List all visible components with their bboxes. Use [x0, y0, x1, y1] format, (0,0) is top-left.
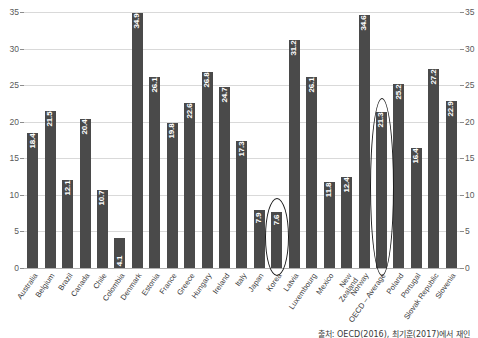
- bar-value-label: 24.7: [221, 88, 229, 103]
- bar[interactable]: 22.6: [184, 103, 195, 268]
- plot-area: 0055101015152020252530303535 18.421.512.…: [24, 12, 460, 268]
- y-axis-tickmark-right-15: [460, 158, 464, 159]
- bar-slot-belgium[interactable]: 21.5: [41, 12, 58, 268]
- category-slot: Poland: [390, 270, 407, 336]
- bar-slot-korea[interactable]: 7.6: [268, 12, 285, 268]
- y-axis-tick-left-30: 30: [10, 45, 19, 54]
- bar-value-label: 26.1: [308, 78, 316, 93]
- y-axis-tick-left-15: 15: [10, 154, 19, 163]
- bar-slot-ireland[interactable]: 24.7: [216, 12, 233, 268]
- bar[interactable]: 4.1: [114, 238, 125, 268]
- bar-slot-new-zealand[interactable]: 12.4: [338, 12, 355, 268]
- bar-value-label: 17.3: [238, 142, 246, 157]
- bar-slot-latvia[interactable]: 31.2: [286, 12, 303, 268]
- bar-slot-canada[interactable]: 20.4: [76, 12, 93, 268]
- category-slot: OECD – Average: [373, 270, 390, 336]
- bar[interactable]: 17.3: [236, 141, 247, 268]
- bar[interactable]: 21.3: [376, 112, 387, 268]
- bar[interactable]: 24.7: [219, 87, 230, 268]
- bar-slot-estonia[interactable]: 26.1: [146, 12, 163, 268]
- bar-value-label: 21.3: [377, 113, 385, 128]
- bar[interactable]: 34.6: [359, 15, 370, 268]
- category-slot: Luxembourg: [303, 270, 320, 336]
- y-axis-tickmark-right-35: [460, 12, 464, 13]
- bar-slot-luxembourg[interactable]: 26.1: [303, 12, 320, 268]
- y-axis-tick-right-15: 15: [465, 154, 474, 163]
- bar-value-label: 34.6: [360, 16, 368, 31]
- bar[interactable]: 26.1: [306, 77, 317, 268]
- category-axis-labels: AustraliaBelgiumBrazilCanadaChileColombi…: [24, 270, 460, 336]
- source-caption: 출처: OECD(2016), 최기훈(2017)에서 재인: [318, 328, 470, 338]
- category-slot: Korea: [268, 270, 285, 336]
- y-axis-tickmark-right-5: [460, 231, 464, 232]
- bar-value-label: 20.4: [81, 119, 89, 134]
- bar[interactable]: 31.2: [289, 40, 300, 268]
- y-axis-tick-right-0: 0: [465, 264, 470, 273]
- bar[interactable]: 26.1: [149, 77, 160, 268]
- bar-slot-portugal[interactable]: 16.4: [408, 12, 425, 268]
- y-axis-tickmark-right-20: [460, 122, 464, 123]
- bar-slot-mexico[interactable]: 11.8: [320, 12, 337, 268]
- bar-slot-norway[interactable]: 34.6: [355, 12, 372, 268]
- category-slot: Hungary: [198, 270, 215, 336]
- bar[interactable]: 12.4: [341, 177, 352, 268]
- bar[interactable]: 20.4: [80, 119, 91, 268]
- category-slot: Estonia: [146, 270, 163, 336]
- bar-slot-poland[interactable]: 25.2: [390, 12, 407, 268]
- category-label-korea: Korea: [265, 272, 283, 293]
- bar[interactable]: 34.9: [132, 13, 143, 268]
- y-axis-tick-right-20: 20: [465, 118, 474, 127]
- bar[interactable]: 27.2: [428, 69, 439, 268]
- bar-value-label: 21.5: [46, 111, 54, 126]
- bar-slot-italy[interactable]: 17.3: [233, 12, 250, 268]
- bar-slot-hungary[interactable]: 26.8: [198, 12, 215, 268]
- bar[interactable]: 7.6: [271, 212, 282, 268]
- bar-slot-chile[interactable]: 10.7: [94, 12, 111, 268]
- bar-slot-oecd-average[interactable]: 21.3: [373, 12, 390, 268]
- bar-slot-colombia[interactable]: 4.1: [111, 12, 128, 268]
- category-slot: Japan: [251, 270, 268, 336]
- bar[interactable]: 7.9: [254, 210, 265, 268]
- y-axis-tick-right-5: 5: [465, 227, 470, 236]
- bar-slot-japan[interactable]: 7.9: [251, 12, 268, 268]
- bar[interactable]: 25.2: [393, 84, 404, 268]
- y-axis-tickmark-right-25: [460, 85, 464, 86]
- bar-value-label: 19.8: [168, 124, 176, 139]
- bar[interactable]: 18.4: [27, 133, 38, 268]
- bar-slot-slovenia[interactable]: 22.9: [443, 12, 460, 268]
- bar-value-label: 7.9: [255, 213, 263, 224]
- bar-value-label: 12.1: [64, 180, 72, 195]
- bar-slot-france[interactable]: 19.8: [164, 12, 181, 268]
- category-slot: NewZealand: [338, 270, 355, 336]
- bar-value-label: 12.4: [343, 178, 351, 193]
- bar[interactable]: 12.1: [62, 180, 73, 269]
- bar-slot-greece[interactable]: 22.6: [181, 12, 198, 268]
- bar-slot-brazil[interactable]: 12.1: [59, 12, 76, 268]
- category-slot: Greece: [181, 270, 198, 336]
- category-slot: Mexico: [320, 270, 337, 336]
- bar[interactable]: 26.8: [202, 72, 213, 268]
- category-slot: France: [164, 270, 181, 336]
- bar[interactable]: 10.7: [97, 190, 108, 268]
- y-axis-tickmark-right-30: [460, 49, 464, 50]
- bar-value-label: 22.6: [186, 103, 194, 118]
- bar-value-label: 26.1: [151, 78, 159, 93]
- bar-value-label: 11.8: [325, 183, 333, 197]
- category-slot: Belgium: [41, 270, 58, 336]
- bar-value-label: 34.9: [133, 13, 141, 28]
- bar[interactable]: 22.9: [446, 101, 457, 268]
- category-slot: Slovak Republic: [425, 270, 442, 336]
- y-axis-tick-left-5: 5: [14, 227, 19, 236]
- y-axis-tick-left-10: 10: [10, 191, 19, 200]
- bar[interactable]: 19.8: [167, 123, 178, 268]
- bar[interactable]: 21.5: [45, 111, 56, 268]
- y-axis-tickmark-right-0: [460, 268, 464, 269]
- bar[interactable]: 11.8: [324, 182, 335, 268]
- bar-slot-australia[interactable]: 18.4: [24, 12, 41, 268]
- bar-slot-denmark[interactable]: 34.9: [129, 12, 146, 268]
- bar[interactable]: 16.4: [411, 148, 422, 268]
- category-slot: Canada: [76, 270, 93, 336]
- bar-slot-slovak-republic[interactable]: 27.2: [425, 12, 442, 268]
- chart-figure: 0055101015152020252530303535 18.421.512.…: [0, 0, 478, 338]
- bar-value-label: 27.2: [430, 70, 438, 85]
